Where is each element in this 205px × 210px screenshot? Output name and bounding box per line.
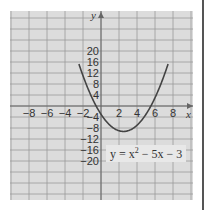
y-tick-label: −20 [80, 155, 99, 167]
equation-label: y = x2 − 5x − 3 [110, 146, 182, 161]
x-tick-label: −4 [59, 107, 72, 119]
page-edge [202, 0, 204, 210]
chart-figure: −8−6−4−2246820161284−4−8−12−16−20 x y y … [0, 0, 205, 210]
x-tick-label: −8 [23, 107, 36, 119]
x-tick-label: 4 [134, 107, 140, 119]
x-axis-label: x [185, 108, 191, 120]
y-axis-label: y [90, 9, 96, 21]
x-tick-label: 8 [170, 107, 176, 119]
x-tick-label: −6 [41, 107, 54, 119]
y-tick-label: 4 [93, 89, 99, 101]
parabola-chart: −8−6−4−2246820161284−4−8−12−16−20 x y y … [0, 0, 205, 210]
x-tick-label: 2 [116, 107, 122, 119]
x-tick-label: 6 [152, 107, 158, 119]
